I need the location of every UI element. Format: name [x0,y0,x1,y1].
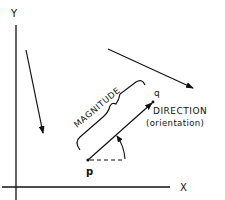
vector-top-right [108,49,193,88]
x-axis-label: X [180,182,187,193]
point-p [86,158,89,161]
y-axis-label: Y [10,8,18,19]
direction-label: DIRECTION [153,106,207,116]
point-q [152,101,155,104]
angle-arc [117,136,125,159]
point-p-label: p [86,166,93,177]
point-q-label: q [154,88,160,98]
direction-sublabel: (orientation) [146,118,204,128]
vector-left-down [26,50,43,133]
vector-diagram: Y X p q MAGNITUDE DIRECTION (orientation… [0,0,225,200]
